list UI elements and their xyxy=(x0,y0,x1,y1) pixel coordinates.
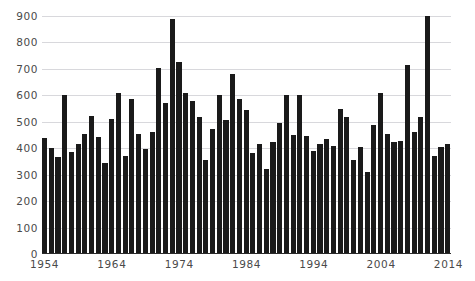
bar xyxy=(109,119,114,254)
bar xyxy=(210,129,215,254)
bar xyxy=(49,148,54,254)
bar xyxy=(344,117,349,254)
x-axis-tick-label: 2004 xyxy=(367,258,396,270)
y-axis-tick-label: 500 xyxy=(0,116,38,128)
bar xyxy=(358,147,363,254)
bar xyxy=(270,142,275,254)
bar xyxy=(244,110,249,254)
bar xyxy=(324,139,329,254)
bar xyxy=(418,117,423,255)
bar xyxy=(331,146,336,254)
bar xyxy=(190,101,195,254)
x-axis-tick-label: 1974 xyxy=(165,258,194,270)
x-axis-tick-label: 1994 xyxy=(299,258,328,270)
bar xyxy=(412,132,417,254)
bar xyxy=(398,141,403,254)
y-axis-tick-label: 800 xyxy=(0,36,38,48)
bar xyxy=(291,135,296,254)
bar xyxy=(136,134,141,254)
bar xyxy=(405,65,410,254)
y-axis-tick-label: 600 xyxy=(0,89,38,101)
bar xyxy=(203,160,208,254)
bar xyxy=(96,137,101,254)
bar xyxy=(338,109,343,254)
bar xyxy=(237,99,242,254)
bar xyxy=(317,144,322,254)
x-axis-tick-label: 2014 xyxy=(434,258,463,270)
bar xyxy=(250,153,255,254)
title-text-fragment xyxy=(86,0,130,2)
bar xyxy=(391,142,396,254)
bar xyxy=(197,117,202,255)
bar-series xyxy=(42,16,451,254)
bar xyxy=(371,125,376,254)
bar xyxy=(55,157,60,254)
bar xyxy=(129,99,134,254)
y-axis-tick-label: 200 xyxy=(0,195,38,207)
x-axis-tick-label: 1964 xyxy=(97,258,126,270)
bar xyxy=(277,123,282,254)
bar xyxy=(76,144,81,254)
bar xyxy=(156,68,161,254)
y-axis-tick-label: 700 xyxy=(0,63,38,75)
bar xyxy=(176,62,181,254)
bar xyxy=(311,151,316,254)
bar xyxy=(163,103,168,254)
bar xyxy=(230,74,235,254)
bar xyxy=(116,93,121,254)
bar xyxy=(385,134,390,254)
bar xyxy=(304,136,309,254)
bar xyxy=(432,156,437,254)
bar xyxy=(351,160,356,254)
bar xyxy=(102,163,107,254)
y-axis-labels: 9008007006005004003002001000 xyxy=(0,0,38,281)
bar xyxy=(170,19,175,254)
bar-chart: 9008007006005004003002001000 19541964197… xyxy=(0,0,475,281)
plot-area xyxy=(42,16,451,254)
bar xyxy=(257,144,262,254)
bar xyxy=(297,95,302,254)
bar xyxy=(123,156,128,254)
bar xyxy=(82,134,87,254)
bar xyxy=(223,120,228,254)
x-axis-line xyxy=(42,253,451,254)
x-axis-labels: 1954196419741984199420042014 xyxy=(42,258,460,278)
bar xyxy=(62,95,67,254)
bar xyxy=(183,93,188,254)
bar xyxy=(445,144,450,254)
bar xyxy=(365,172,370,255)
y-axis-tick-label: 900 xyxy=(0,10,38,22)
cut-off-title xyxy=(86,0,296,5)
bar xyxy=(150,132,155,254)
bar xyxy=(42,138,47,254)
bar xyxy=(264,169,269,254)
x-axis-tick-label: 1954 xyxy=(30,258,59,270)
x-axis-tick-label: 1984 xyxy=(232,258,261,270)
bar xyxy=(217,95,222,254)
bar xyxy=(378,93,383,254)
bar xyxy=(438,147,443,254)
bar xyxy=(89,116,94,254)
y-axis-tick-label: 100 xyxy=(0,222,38,234)
bar xyxy=(143,149,148,254)
y-axis-tick-label: 400 xyxy=(0,142,38,154)
y-axis-tick-label: 300 xyxy=(0,169,38,181)
bar xyxy=(69,152,74,254)
bar xyxy=(425,16,430,254)
bar xyxy=(284,95,289,254)
